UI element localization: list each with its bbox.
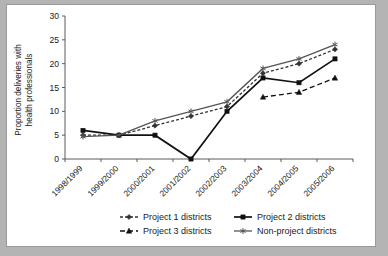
legend-item-1[interactable]: Project 1 districts bbox=[120, 212, 212, 222]
marker-square bbox=[189, 157, 193, 161]
marker-square bbox=[153, 133, 157, 137]
y-axis-title-line1: Proportion deliveries with bbox=[14, 44, 23, 136]
y-tick-label: 0 bbox=[54, 154, 59, 164]
x-tick-label: 1999/2000 bbox=[85, 163, 120, 198]
y-tick-label: 20 bbox=[49, 59, 59, 69]
legend-label: Non-project districts bbox=[257, 226, 337, 236]
marker-square bbox=[261, 76, 265, 80]
x-tick-label: 2001/2002 bbox=[157, 163, 192, 198]
y-tick-label: 15 bbox=[49, 83, 59, 93]
x-tick-label: 2000/2001 bbox=[121, 163, 156, 198]
legend-item-4[interactable]: Non-project districts bbox=[234, 226, 337, 236]
y-tick-label: 25 bbox=[49, 35, 59, 45]
legend-label: Project 3 districts bbox=[143, 226, 212, 236]
figure-background: 051015202530 1998/19991999/20002000/2001… bbox=[0, 0, 388, 256]
series-line bbox=[83, 59, 335, 159]
y-axis-title: Proportion deliveries with health profes… bbox=[14, 44, 34, 136]
x-tick-label: 2004/2005 bbox=[265, 163, 300, 198]
series-2 bbox=[81, 57, 337, 161]
legend-label: Project 2 districts bbox=[257, 212, 326, 222]
marker-triangle bbox=[332, 75, 337, 80]
x-tick-label: 1998/1999 bbox=[49, 163, 84, 198]
marker-square bbox=[81, 128, 85, 132]
legend-label: Project 1 districts bbox=[143, 212, 212, 222]
y-axis-tick-labels: 051015202530 bbox=[49, 11, 59, 164]
line-chart: 051015202530 1998/19991999/20002000/2001… bbox=[7, 5, 375, 246]
marker-square bbox=[225, 109, 229, 113]
data-series-layer bbox=[80, 42, 337, 161]
marker-star bbox=[332, 42, 337, 48]
marker-square bbox=[241, 215, 245, 219]
y-axis-title-line2: health professionals bbox=[25, 54, 34, 127]
legend-item-2[interactable]: Project 2 districts bbox=[234, 212, 326, 222]
x-tick-label: 2005/2006 bbox=[301, 163, 336, 198]
chart-frame: 051015202530 1998/19991999/20002000/2001… bbox=[6, 4, 376, 247]
marker-diamond bbox=[126, 214, 131, 219]
y-tick-label: 10 bbox=[49, 106, 59, 116]
chart-legend: Project 1 districtsProject 2 districtsPr… bbox=[120, 212, 337, 236]
x-tick-label: 2003/2004 bbox=[229, 163, 264, 198]
marker-square bbox=[333, 57, 337, 61]
marker-square bbox=[297, 81, 301, 85]
x-tick-label: 2002/2003 bbox=[193, 163, 228, 198]
y-tick-label: 5 bbox=[54, 130, 59, 140]
y-tick-label: 30 bbox=[49, 11, 59, 21]
x-axis-tick-labels: 1998/19991999/20002000/20012001/20022002… bbox=[49, 163, 336, 198]
legend-item-3[interactable]: Project 3 districts bbox=[120, 226, 212, 236]
